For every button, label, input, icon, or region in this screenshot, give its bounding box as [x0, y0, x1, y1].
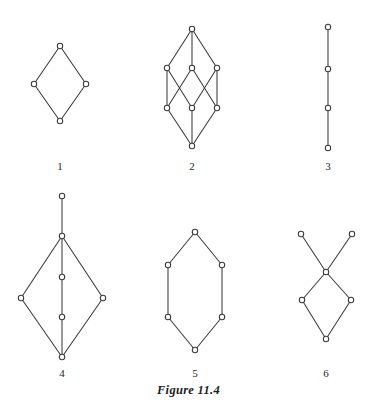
- edge-group: [167, 29, 217, 146]
- node-group: [31, 43, 88, 123]
- diagram-number-label: 3: [316, 160, 340, 172]
- diagram-number-label: 1: [48, 160, 72, 172]
- hasse-diagram-4: [18, 193, 105, 359]
- lattice-node: [189, 26, 194, 31]
- edge: [326, 234, 352, 272]
- edge: [192, 29, 217, 68]
- lattice-node: [57, 118, 62, 123]
- edge: [60, 84, 86, 121]
- lattice-node: [59, 233, 64, 238]
- hasse-diagram-2: [164, 26, 219, 148]
- lattice-node: [83, 81, 88, 86]
- lattice-node: [219, 262, 224, 267]
- figure-caption: Figure 11.4: [0, 383, 377, 398]
- lattice-node: [214, 105, 219, 110]
- lattice-node: [325, 105, 330, 110]
- edge: [168, 317, 195, 350]
- edge-group: [301, 234, 352, 339]
- lattice-node: [348, 297, 353, 302]
- lattice-node: [219, 314, 224, 319]
- diagram-number-label: 2: [180, 160, 204, 172]
- lattice-node: [299, 297, 304, 302]
- lattice-node: [325, 66, 330, 71]
- lattice-node: [31, 81, 36, 86]
- hasse-diagram-1: [31, 43, 88, 123]
- lattice-node: [325, 24, 330, 29]
- lattice-node: [189, 105, 194, 110]
- lattice-node: [192, 229, 197, 234]
- hasse-diagram-3: [325, 24, 330, 150]
- lattice-node: [100, 295, 105, 300]
- lattice-node: [59, 274, 64, 279]
- node-group: [165, 229, 224, 352]
- lattice-node: [323, 336, 328, 341]
- lattice-node: [298, 231, 303, 236]
- edge: [195, 317, 222, 350]
- edge: [326, 300, 351, 339]
- edge: [167, 108, 192, 146]
- lattice-node: [323, 269, 328, 274]
- edge: [195, 232, 222, 265]
- edge-group: [168, 232, 222, 350]
- lattice-node: [165, 314, 170, 319]
- edge: [301, 234, 326, 272]
- edge: [62, 236, 103, 298]
- edge: [21, 236, 62, 298]
- lattice-node: [18, 295, 23, 300]
- lattice-node: [325, 145, 330, 150]
- figure-sheet: 123456 Figure 11.4: [0, 0, 377, 403]
- hasse-diagram-5: [165, 229, 224, 352]
- lattice-node: [192, 347, 197, 352]
- edge-group: [34, 46, 86, 121]
- edge: [60, 46, 86, 84]
- diagram-number-label: 6: [314, 367, 338, 379]
- edge: [34, 84, 60, 121]
- edge: [326, 272, 351, 300]
- lattice-node: [165, 262, 170, 267]
- lattice-node: [57, 43, 62, 48]
- edge: [302, 300, 326, 339]
- lattice-node: [189, 143, 194, 148]
- lattice-node: [164, 65, 169, 70]
- hasse-diagram-6: [298, 231, 354, 341]
- lattice-node: [59, 314, 64, 319]
- edge: [302, 272, 326, 300]
- edge: [167, 29, 192, 68]
- edge: [21, 298, 62, 357]
- edge: [34, 46, 60, 84]
- lattice-node: [349, 231, 354, 236]
- edge: [62, 298, 103, 357]
- lattice-node: [214, 65, 219, 70]
- lattice-node: [59, 193, 64, 198]
- edge: [192, 108, 217, 146]
- lattice-node: [164, 105, 169, 110]
- lattice-node: [189, 65, 194, 70]
- lattice-node: [59, 354, 64, 359]
- node-group: [298, 231, 354, 341]
- hasse-diagram-canvas: [0, 0, 377, 403]
- diagram-number-label: 5: [183, 367, 207, 379]
- edge: [168, 232, 195, 265]
- diagram-number-label: 4: [50, 367, 74, 379]
